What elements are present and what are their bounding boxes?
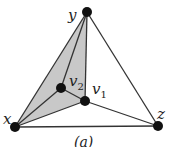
vertex-x [10,122,20,132]
label-x: x [3,110,12,128]
caption: (a) [74,134,93,147]
vertex-v2 [56,83,66,93]
edge-y-z [87,12,158,126]
label-v1: v1 [92,80,107,100]
planar-graph-diagram: y x z v1 v2 (a) [0,0,173,147]
label-z: z [156,105,165,123]
edge-x-z [15,126,158,127]
vertex-v1 [80,96,90,106]
vertex-y [82,7,92,17]
label-y: y [67,6,77,24]
edge-v1-z [85,101,158,126]
